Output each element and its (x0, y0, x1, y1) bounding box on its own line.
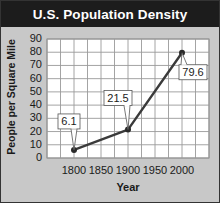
svg-text:79.6: 79.6 (182, 66, 203, 78)
chart-panel: U.S. Population Density People per Squar… (0, 0, 220, 203)
plot-area: 6.121.579.6 (1, 1, 219, 202)
svg-text:6.1: 6.1 (61, 115, 76, 127)
svg-text:21.5: 21.5 (107, 92, 128, 104)
x-axis-label: Year (48, 181, 208, 193)
